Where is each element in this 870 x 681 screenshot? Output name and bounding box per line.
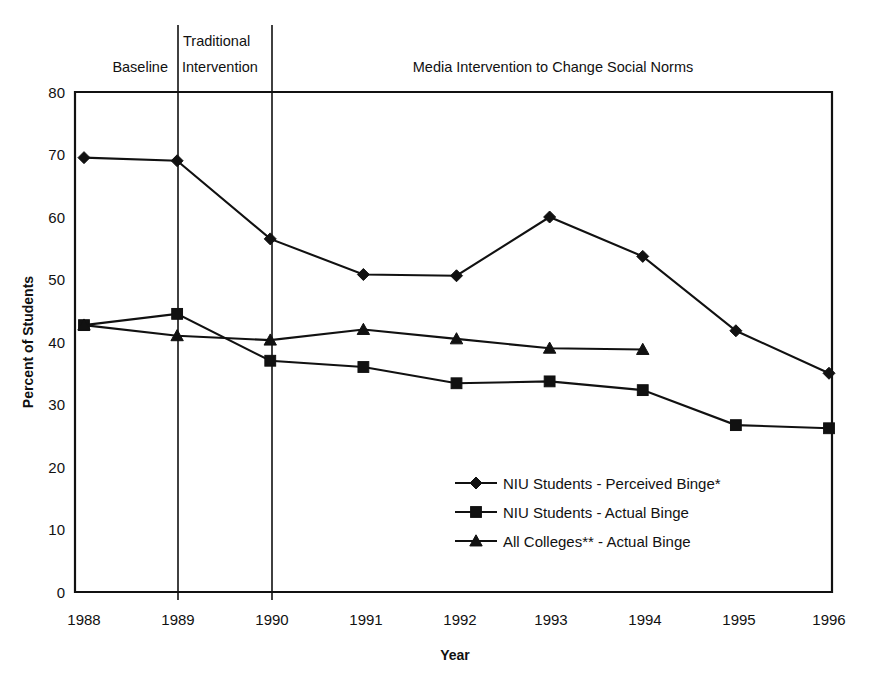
phase-label-baseline: Baseline — [112, 59, 168, 75]
data-point-square-6 — [637, 385, 648, 396]
y-tick-80: 80 — [48, 84, 65, 101]
y-tick-10: 10 — [48, 521, 65, 538]
y-tick-60: 60 — [48, 209, 65, 226]
legend-label-0: NIU Students - Perceived Binge* — [503, 475, 721, 492]
binge-drinking-line-chart: Baseline Traditional Intervention Media … — [0, 0, 870, 681]
phase-label-traditional-line1: Traditional — [183, 33, 250, 49]
chart-container: Baseline Traditional Intervention Media … — [0, 0, 870, 681]
data-point-square-3 — [358, 362, 369, 373]
x-tick-1996: 1996 — [812, 611, 845, 628]
chart-background — [0, 0, 870, 681]
x-tick-1988: 1988 — [67, 611, 100, 628]
legend-marker-square — [471, 507, 482, 518]
x-tick-1989: 1989 — [161, 611, 194, 628]
data-point-square-1 — [172, 308, 183, 319]
legend-label-1: NIU Students - Actual Binge — [503, 504, 689, 521]
y-axis-title: Percent of Students — [20, 276, 36, 408]
x-tick-1990: 1990 — [255, 611, 288, 628]
x-axis-ticks: 1988 1989 1990 1991 1992 1993 1994 1995 … — [67, 611, 845, 628]
x-tick-1991: 1991 — [349, 611, 382, 628]
x-tick-1994: 1994 — [628, 611, 661, 628]
x-axis-title: Year — [440, 647, 470, 663]
y-tick-50: 50 — [48, 271, 65, 288]
y-tick-30: 30 — [48, 396, 65, 413]
data-point-square-4 — [451, 378, 462, 389]
x-tick-1992: 1992 — [443, 611, 476, 628]
phase-label-traditional-line2: Intervention — [182, 59, 258, 75]
y-tick-40: 40 — [48, 334, 65, 351]
x-tick-1993: 1993 — [534, 611, 567, 628]
x-tick-1995: 1995 — [722, 611, 755, 628]
y-axis-ticks: 80 70 60 50 40 30 20 10 0 — [48, 84, 65, 601]
y-tick-0: 0 — [57, 584, 65, 601]
legend-label-2: All Colleges** - Actual Binge — [503, 533, 691, 550]
phase-label-media: Media Intervention to Change Social Norm… — [413, 59, 693, 75]
data-point-square-2 — [265, 355, 276, 366]
y-tick-20: 20 — [48, 459, 65, 476]
data-point-square-8 — [824, 423, 835, 434]
data-point-square-5 — [544, 376, 555, 387]
data-point-square-7 — [730, 420, 741, 431]
y-tick-70: 70 — [48, 146, 65, 163]
